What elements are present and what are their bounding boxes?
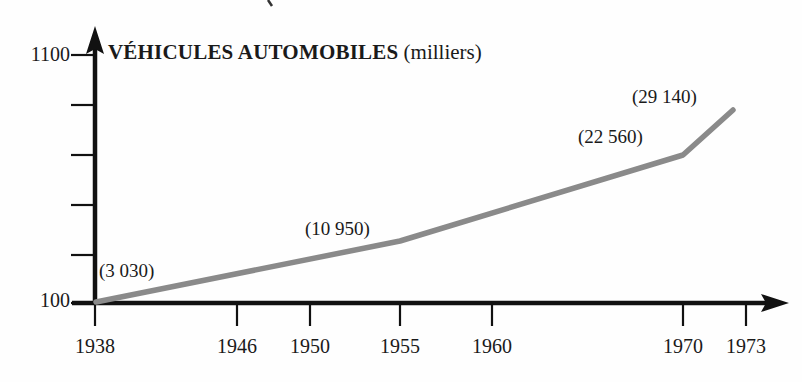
x-axis-tick-label-1960: 1960	[457, 336, 527, 356]
chart-title-unit: (milliers)	[404, 40, 482, 64]
x-axis-tick-label-1946: 1946	[202, 336, 272, 356]
x-axis-tick-label-1955: 1955	[365, 336, 435, 356]
y-axis-tick-label-100: 100	[8, 290, 70, 310]
x-axis-tick-label-1973: 1973	[711, 336, 781, 356]
data-point-label-1938: (3 030)	[99, 261, 154, 280]
chart-title-main: VÉHICULES AUTOMOBILES	[108, 40, 398, 64]
x-axis-tick-label-1938: 1938	[60, 336, 130, 356]
data-point-label-1955: (10 950)	[305, 219, 370, 238]
scan-artifact-mark	[268, 0, 272, 6]
chart-container: VÉHICULES AUTOMOBILES (milliers) 1100 10…	[0, 0, 802, 382]
y-axis-ticks	[71, 55, 95, 303]
x-axis-tick-label-1970: 1970	[648, 336, 718, 356]
data-point-label-1970: (22 560)	[578, 127, 643, 146]
data-point-label-1973: (29 140)	[632, 87, 697, 106]
x-axis-ticks	[95, 303, 746, 326]
chart-title: VÉHICULES AUTOMOBILES (milliers)	[108, 42, 482, 63]
y-axis-tick-label-1100: 1100	[8, 44, 70, 64]
x-axis-tick-label-1950: 1950	[275, 336, 345, 356]
